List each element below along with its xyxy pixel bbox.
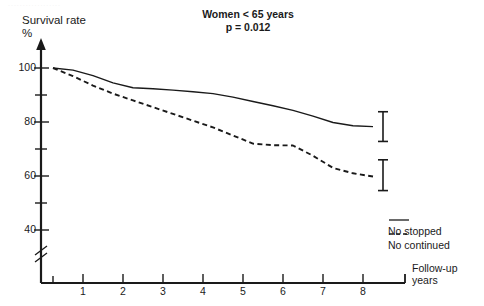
error-bar-no-continued (378, 160, 388, 191)
plot-area (0, 0, 484, 306)
series-layer (53, 68, 388, 191)
series-line-no-continued (53, 68, 373, 177)
error-bar-no-stopped (378, 112, 388, 142)
y-axis-arrowhead (36, 38, 46, 50)
survival-curve-figure: .................. Survival rate % Women… (0, 0, 484, 306)
series-line-no-stopped (53, 68, 373, 127)
